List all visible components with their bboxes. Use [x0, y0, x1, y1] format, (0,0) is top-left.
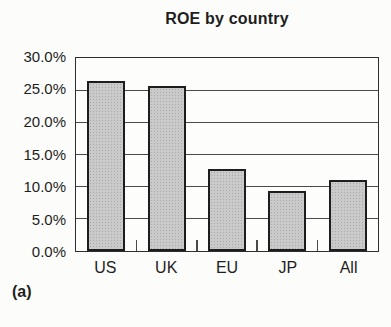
y-axis-labels: 30.0%25.0%20.0%15.0%10.0%5.0%0.0% [0, 57, 66, 252]
y-tick-label: 0.0% [0, 242, 66, 262]
category-boundary-tick [317, 240, 319, 251]
bar-us [87, 81, 125, 251]
category-boundary-tick [196, 240, 198, 251]
y-tick-label: 10.0% [0, 177, 66, 197]
x-tick-label-uk: UK [136, 257, 197, 279]
x-tick-label-us: US [75, 257, 136, 279]
bar-jp [268, 191, 306, 251]
x-tick-label-eu: EU [197, 257, 258, 279]
y-tick-label: 5.0% [0, 210, 66, 230]
y-tick-label: 20.0% [0, 112, 66, 132]
bar-all [329, 180, 367, 251]
y-tick-label: 15.0% [0, 145, 66, 165]
y-tick-label: 25.0% [0, 79, 66, 99]
x-tick-label-jp: JP [257, 257, 318, 279]
y-tick-label: 30.0% [0, 47, 66, 67]
bar-uk [148, 86, 186, 251]
plot-area [75, 57, 379, 252]
roe-bar-chart-figure: ROE by country 30.0%25.0%20.0%15.0%10.0%… [0, 0, 391, 327]
chart-title: ROE by country [75, 10, 379, 28]
category-boundary-tick [256, 240, 258, 251]
figure-panel-label: (a) [12, 283, 32, 301]
x-axis-labels: USUKEUJPAll [75, 257, 379, 279]
category-boundary-tick [136, 240, 138, 251]
bar-eu [208, 169, 246, 251]
x-tick-label-all: All [318, 257, 379, 279]
